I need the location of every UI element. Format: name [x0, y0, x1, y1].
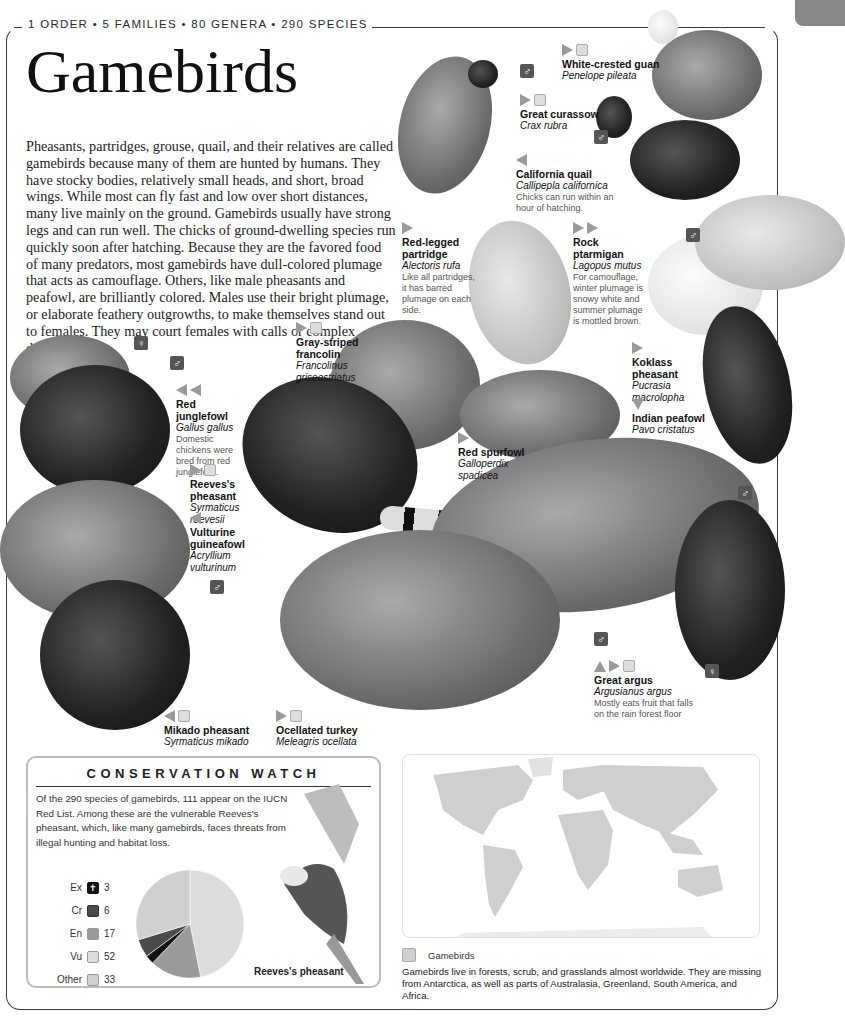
male-symbol: ♂: [738, 486, 752, 500]
trend-left-icon: [516, 154, 527, 166]
great-curassow-illustration: [630, 120, 740, 200]
trend-right-icon: [573, 222, 584, 234]
other-status-icon: [87, 974, 99, 986]
great-argus-illustration: [675, 500, 785, 680]
mikado-pheasant-illustration: [40, 580, 190, 730]
status-icon: [534, 94, 546, 106]
male-symbol: ♂: [170, 356, 184, 370]
status-icon: [204, 464, 216, 476]
trend-left-icon: [164, 710, 175, 722]
quail-head: [468, 60, 498, 88]
frame-rule: [14, 27, 22, 28]
critical-status-icon: [87, 905, 99, 917]
reevess-pheasant-flying-illustration: [264, 784, 369, 984]
trend-left-icon: [190, 512, 201, 524]
endangered-status-icon: [87, 928, 99, 940]
taxonomy-stats: 1 ORDER • 5 FAMILIES • 80 GENERA • 290 S…: [24, 18, 372, 30]
extinct-cross-icon: ✝: [87, 882, 99, 894]
guan-head: [648, 10, 678, 44]
status-icon: [310, 322, 322, 334]
species-label-great-argus: Great argus Argusianus argus Mostly eats…: [594, 660, 694, 720]
trend-right-icon: [609, 660, 620, 672]
status-icon: [290, 710, 302, 722]
male-symbol: ♂: [210, 580, 224, 594]
conservation-caption: Reeves's pheasant: [254, 966, 344, 977]
species-label-gray-striped-francolin: Gray-striped francolin Francolinus grise…: [296, 322, 396, 384]
species-label-rock-ptarmigan: Rock ptarmigan Lagopus mutus For camoufl…: [573, 222, 651, 327]
red-junglefowl-rooster-illustration: [20, 365, 170, 495]
map-legend: Gamebirds: [402, 948, 474, 962]
north-america: [433, 765, 533, 835]
trend-right-icon: [402, 222, 413, 234]
antarctica: [453, 927, 713, 938]
trend-right-icon: [458, 432, 469, 444]
trend-left-icon: [190, 384, 201, 396]
species-label-great-curassow: Great curassow Crax rubra: [520, 94, 599, 132]
species-label-indian-peafowl: Indian peafowl Pavo cristatus: [632, 398, 712, 436]
female-symbol: ♀: [134, 336, 148, 350]
legend-item-cr: Cr 6: [36, 899, 126, 922]
trend-right-icon: [276, 710, 287, 722]
status-icon: [623, 660, 635, 672]
male-symbol: ♂: [594, 632, 608, 646]
legend-item-other: Other 33: [36, 968, 126, 991]
south-america: [483, 845, 523, 917]
trend-right-icon: [632, 342, 643, 354]
trend-right-icon: [562, 44, 573, 56]
male-symbol: ♂: [594, 130, 608, 144]
trend-right-icon: [520, 94, 531, 106]
status-icon: [178, 710, 190, 722]
species-label-vulturine-guineafowl: Vulturine guineafowl Acryllium vulturinu…: [190, 512, 254, 574]
conservation-watch-panel: CONSERVATION WATCH Of the 290 species of…: [26, 756, 381, 988]
australia: [678, 865, 723, 897]
species-label-red-legged-partridge: Red-legged partridge Alectoris rufa Like…: [402, 222, 476, 316]
gamebirds-range-swatch: [402, 948, 416, 962]
europe: [563, 765, 608, 800]
world-map-graphic: [403, 755, 760, 938]
species-label-red-spurfowl: Red spurfowl Galloperdix spadicea: [458, 432, 528, 482]
species-label-white-crested-guan: White-crested guan Penelope pileata: [562, 44, 659, 82]
conservation-text: Of the 290 species of gamebirds, 111 app…: [36, 792, 291, 850]
southeast-asia: [658, 830, 703, 855]
species-label-koklass-pheasant: Koklass pheasant Pucrasia macrolopha: [632, 342, 712, 404]
rock-ptarmigan-summer-illustration: [695, 195, 845, 290]
distribution-map: [402, 754, 760, 938]
page-number-tab: [795, 0, 845, 26]
vulnerable-status-icon: [87, 951, 99, 963]
ocellated-turkey-illustration: [280, 530, 560, 710]
pie-slices: [136, 870, 244, 978]
map-caption: Gamebirds live in forests, scrub, and gr…: [402, 966, 762, 1002]
trend-right-icon: [587, 222, 598, 234]
page-title: Gamebirds: [26, 36, 298, 106]
map-legend-label: Gamebirds: [428, 950, 474, 961]
legend-item-en: En 17: [36, 922, 126, 945]
trend-right-icon: [190, 464, 201, 476]
greenland: [528, 757, 553, 777]
female-symbol: ♀: [705, 664, 719, 678]
trend-up-icon: [594, 661, 606, 672]
status-icon: [576, 44, 588, 56]
male-symbol: ♂: [520, 64, 534, 78]
legend-item-vu: Vu 52: [36, 945, 126, 968]
pie-slice-vu: [190, 870, 244, 977]
trend-down-icon: [632, 399, 644, 410]
species-label-ocellated-turkey: Ocellated turkey Meleagris ocellata: [276, 710, 376, 748]
africa: [558, 810, 613, 890]
legend-item-ex: Ex ✝ 3: [36, 876, 126, 899]
conservation-pie-chart: [132, 868, 248, 980]
trend-left-icon: [176, 384, 187, 396]
conservation-legend: Ex ✝ 3 Cr 6 En 17 Vu 52 Other 33: [36, 876, 126, 991]
asia: [603, 765, 718, 835]
conservation-title: CONSERVATION WATCH: [28, 766, 379, 781]
frame-rule: [345, 27, 765, 28]
species-label-mikado-pheasant: Mikado pheasant Syrmaticus mikado: [164, 710, 264, 748]
male-symbol: ♂: [686, 228, 700, 242]
trend-right-icon: [296, 322, 307, 334]
species-label-california-quail: California quail Callipepla californica …: [516, 154, 616, 214]
